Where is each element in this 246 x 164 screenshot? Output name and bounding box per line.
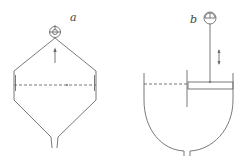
level-marker [66,84,68,86]
vessel-b-outlet [184,151,190,156]
vessel-b-body [144,73,233,151]
arrow-icon [53,48,56,64]
panel-b: b [144,12,233,156]
panel-b-label: b [190,13,197,26]
panel-a: a [14,11,96,148]
diagram-canvas: a b [0,0,246,164]
vessel-a-bottom-cone [14,100,96,148]
panel-a-label: a [70,11,77,24]
gauge-icon [204,12,216,24]
gauge-icon [49,25,61,38]
vessel-a-walls [14,71,96,100]
arrow-icon [218,49,221,65]
float [188,82,233,89]
